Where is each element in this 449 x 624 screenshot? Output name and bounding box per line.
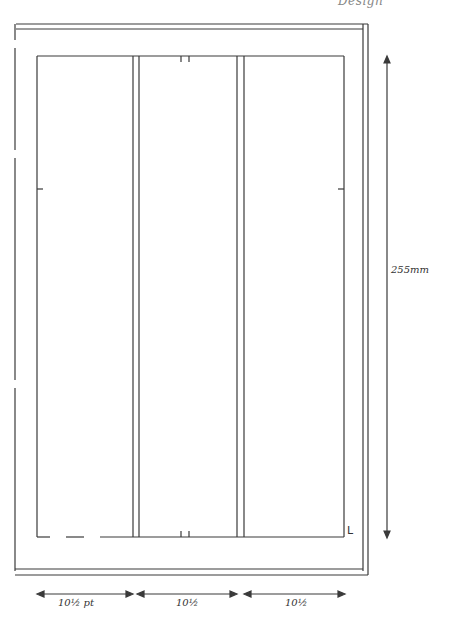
corner-crop-mark: L: [347, 524, 353, 537]
column-gutter-2: [237, 56, 244, 537]
column-2-width-label: 10½: [176, 597, 198, 608]
outer-sheet-frame: [15, 24, 368, 575]
layout-diagram: [0, 0, 449, 624]
column-3-width-label: 10½: [285, 597, 307, 608]
text-block-frame: [37, 56, 344, 537]
column-1-width-label: 10½ pt: [58, 597, 94, 608]
center-ticks: [37, 56, 344, 537]
height-dimension-arrow: [384, 56, 390, 538]
height-dimension-label: 255mm: [391, 264, 429, 275]
column-gutter-1: [133, 56, 139, 537]
